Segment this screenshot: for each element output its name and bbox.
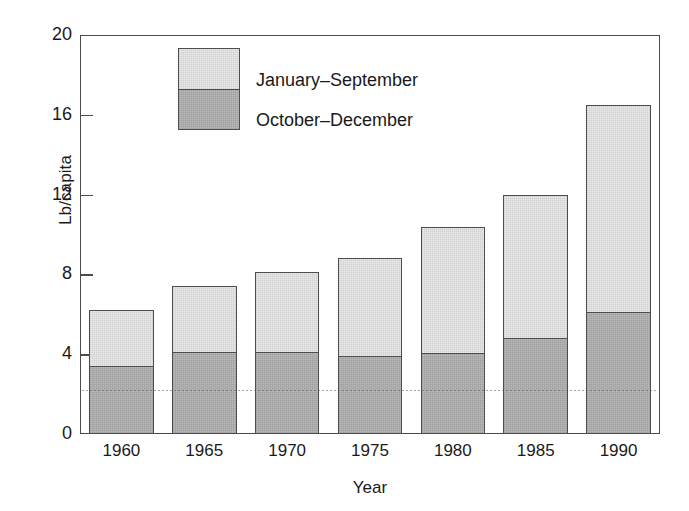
bar-segment-october-december: [172, 352, 237, 434]
y-axis-tick-label: 4: [24, 343, 72, 364]
x-axis-tick-label: 1990: [574, 441, 664, 461]
legend-swatch: [178, 48, 240, 130]
bar-segment-october-december: [421, 353, 486, 434]
bar-segment-october-december: [338, 356, 403, 434]
bar-segment-january-september: [421, 227, 486, 355]
bar-segment-january-september: [586, 105, 651, 314]
bar-segment-january-september: [172, 286, 237, 353]
bar-segment-october-december: [586, 312, 651, 434]
bar-segment-january-september: [89, 310, 154, 367]
legend-swatch-january-september: [178, 48, 240, 90]
legend-label-january-september: January–September: [256, 70, 418, 91]
x-axis-tick-label: 1965: [159, 441, 249, 461]
x-axis-tick-label: 1980: [408, 441, 498, 461]
x-axis-tick-label: 1970: [242, 441, 332, 461]
x-axis-tick-label: 1975: [325, 441, 415, 461]
y-axis-tick-label: 0: [24, 423, 72, 444]
y-axis-tick-label: 12: [24, 184, 72, 205]
y-axis-tick-label: 16: [24, 104, 72, 125]
bar-segment-january-september: [338, 258, 403, 357]
bar-segment-october-december: [503, 338, 568, 434]
bar-segment-january-september: [503, 195, 568, 340]
y-axis-tick-label: 20: [24, 24, 72, 45]
x-axis-tick-label: 1960: [76, 441, 166, 461]
bar-segment-october-december: [89, 366, 154, 434]
chart-figure: Lb/capita 048121620 19601965197019751980…: [0, 0, 689, 511]
x-axis-label: Year: [80, 478, 660, 498]
y-axis-tick-mark: [80, 115, 93, 117]
y-axis-tick-mark: [80, 195, 93, 197]
legend-swatch-october-december: [178, 89, 240, 130]
bar-segment-january-september: [255, 272, 320, 353]
y-axis-tick-label: 8: [24, 263, 72, 284]
bar-segment-october-december: [255, 352, 320, 434]
y-axis-tick-mark: [80, 274, 93, 276]
x-axis-tick-label: 1985: [491, 441, 581, 461]
legend-label-october-december: October–December: [256, 110, 413, 131]
